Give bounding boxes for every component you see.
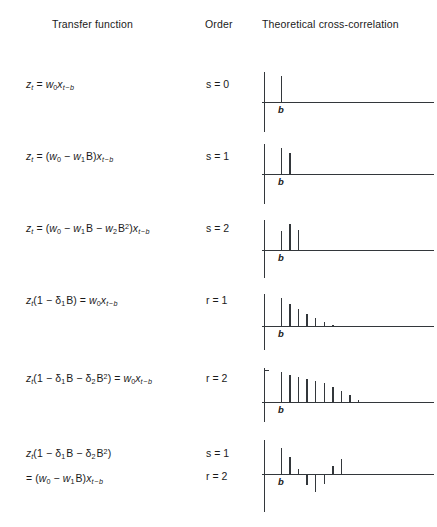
impulse-plot-row-4: b (262, 278, 434, 350)
impulse-spike (332, 466, 333, 474)
order-row-1: s = 0 (206, 78, 229, 90)
plot-horizontal-axis (262, 174, 434, 175)
order-label-line1: s = 1 (206, 447, 229, 459)
impulse-spike (315, 381, 316, 402)
plot-horizontal-axis (262, 102, 434, 103)
formula-row-3: zt = (w0 − w1 B − w2 B2)xt − b (26, 222, 150, 236)
impulse-spike (289, 224, 290, 250)
order-row-2: s = 1 (206, 150, 229, 162)
column-header-cross-correlation: Theoretical cross-correlation (262, 18, 399, 30)
plot-horizontal-axis (262, 326, 434, 327)
figure-impulse-response-table: Transfer function Order Theoretical cros… (0, 0, 437, 527)
impulse-spike (358, 400, 359, 402)
impulse-spike (341, 459, 342, 474)
formula-row-5: zt(1 − δ1 B − δ2 B2) = w0xt − b (26, 372, 152, 386)
impulse-spike (281, 148, 282, 174)
formula-row-2: zt = (w0 − w1 B)xt − b (26, 150, 113, 164)
impulse-spike (349, 395, 350, 402)
order-label-line1: s = 0 (206, 78, 229, 90)
table-row: zt = w0xt − b s = 0 b (0, 62, 437, 134)
impulse-spike (324, 474, 325, 484)
order-row-6: s = 1 r = 2 (206, 447, 229, 482)
plot-vertical-axis (264, 440, 265, 512)
lag-b-label: b (278, 104, 284, 115)
order-label-line2: r = 2 (206, 470, 229, 482)
column-header-order: Order (205, 18, 233, 30)
plot-vertical-axis (264, 294, 265, 350)
impulse-plot-row-6: b (262, 430, 434, 520)
table-row: zt(1 − δ1 B) = w0xt − b r = 1 b (0, 278, 437, 350)
table-header: Transfer function Order Theoretical cros… (0, 18, 437, 38)
formula-row-1: zt = w0xt − b (26, 78, 74, 92)
impulse-plot-row-2: b (262, 134, 434, 206)
impulse-spike (281, 231, 282, 250)
impulse-spike (315, 318, 316, 326)
plot-horizontal-axis (262, 402, 434, 403)
impulse-spike (281, 76, 282, 102)
impulse-spike (298, 230, 299, 250)
table-row: zt = (w0 − w1 B)xt − b s = 1 b (0, 134, 437, 206)
impulse-spike (324, 383, 325, 402)
impulse-plot-row-5: b (262, 350, 434, 422)
impulse-spike (341, 391, 342, 402)
impulse-spike (289, 304, 290, 326)
order-row-3: s = 2 (206, 222, 229, 234)
lag-b-label: b (278, 476, 284, 487)
impulse-plot-row-1: b (262, 62, 434, 134)
plot-vertical-axis (264, 220, 265, 278)
order-label-line1: r = 2 (206, 372, 227, 384)
impulse-spike (306, 314, 307, 326)
impulse-spike (281, 298, 282, 326)
plot-vertical-axis (264, 368, 265, 422)
impulse-spike (306, 379, 307, 402)
table-row: zt = (w0 − w1 B − w2 B2)xt − b s = 2 b (0, 206, 437, 278)
lag-b-label: b (278, 328, 284, 339)
lag-b-label: b (278, 252, 284, 263)
impulse-spike (289, 457, 290, 474)
table-row: zt(1 − δ1 B − δ2 B2) = w0xt − b r = 2 b (0, 350, 437, 422)
impulse-spike (298, 377, 299, 402)
order-label-line1: r = 1 (206, 294, 227, 306)
impulse-spike (332, 387, 333, 402)
impulse-spike (315, 474, 316, 492)
impulse-spike (289, 375, 290, 402)
order-label-line1: s = 1 (206, 150, 229, 162)
column-header-transfer-function: Transfer function (52, 18, 133, 30)
formula-row-4: zt(1 − δ1 B) = w0xt − b (26, 294, 118, 308)
lag-b-label: b (278, 404, 284, 415)
plot-horizontal-axis (262, 474, 434, 475)
lag-b-label: b (278, 176, 284, 187)
table-row: zt(1 − δ1 B − δ2 B2) = (w0 − w1 B)xt − b… (0, 430, 437, 520)
impulse-spike (324, 322, 325, 326)
impulse-spike (298, 469, 299, 474)
order-row-4: r = 1 (206, 294, 227, 306)
impulse-spike (298, 309, 299, 326)
plot-horizontal-axis (262, 250, 434, 251)
order-row-5: r = 2 (206, 372, 227, 384)
order-label-line1: s = 2 (206, 222, 229, 234)
impulse-spike (306, 474, 307, 485)
plot-y-axis-tick (264, 370, 269, 371)
impulse-spike (289, 153, 290, 174)
impulse-plot-row-3: b (262, 206, 434, 278)
impulse-spike (281, 448, 282, 474)
formula-row-6: zt(1 − δ1 B − δ2 B2) = (w0 − w1 B)xt − b (26, 447, 111, 486)
impulse-spike (281, 372, 282, 402)
impulse-spike (332, 325, 333, 326)
